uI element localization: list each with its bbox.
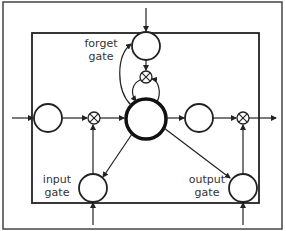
- forget-gate-label-line2: gate: [89, 50, 114, 63]
- input-multiply-icon: [88, 112, 100, 124]
- output-multiply-icon: [237, 112, 249, 124]
- input-gate-label-line2: gate: [45, 186, 70, 199]
- forget-multiply-icon: [140, 71, 152, 83]
- output-gate-label-line1: output: [189, 173, 226, 186]
- cell-input-node: [34, 104, 62, 132]
- lstm-diagram: forget gate input gate output gate: [0, 0, 286, 231]
- memory-cell-node: [126, 99, 166, 139]
- cell-output-node: [185, 104, 213, 132]
- forget-gate-label-line1: forget: [85, 37, 119, 50]
- output-gate-label-line2: gate: [195, 186, 220, 199]
- input-gate-label-line1: input: [43, 173, 72, 186]
- output-gate-node: [229, 174, 257, 202]
- input-gate-node: [79, 174, 107, 202]
- forget-gate-node: [132, 32, 160, 60]
